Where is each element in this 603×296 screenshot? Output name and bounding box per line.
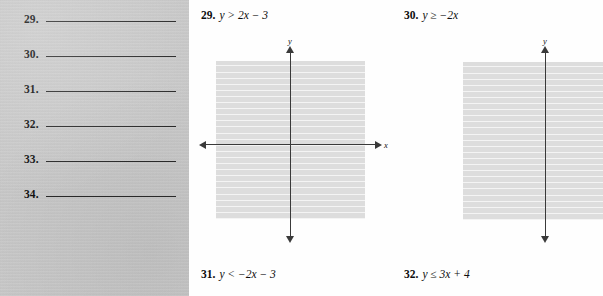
x-axis-right-arrow-icon	[375, 141, 382, 149]
coordinate-grid-30[interactable]: y	[392, 0, 603, 250]
grid-background	[463, 62, 603, 220]
y-axis-line	[545, 52, 546, 237]
y-axis-label: y	[543, 36, 547, 46]
answer-blank-line[interactable]	[46, 161, 176, 162]
answer-number: 31.	[24, 83, 39, 95]
answer-blank-line[interactable]	[46, 21, 176, 22]
problem-label-32: 32.y ≤ 3x + 4	[404, 268, 470, 280]
answer-number: 29.	[24, 13, 39, 25]
answer-blank-line[interactable]	[46, 196, 176, 197]
y-axis-label: y	[288, 36, 292, 46]
x-axis-left-arrow-icon	[199, 141, 206, 149]
answer-number: 34.	[24, 188, 39, 200]
problem-number: 32.	[404, 268, 418, 280]
problem-inequality: y < −2x − 3	[219, 268, 276, 280]
answer-blank-line[interactable]	[46, 91, 176, 92]
answer-blank-line[interactable]	[46, 56, 176, 57]
answer-row: 32.	[0, 113, 189, 129]
y-axis-line	[290, 52, 291, 237]
answer-blanks-panel: 29. 30. 31. 32. 33. 34.	[0, 0, 189, 296]
problem-number: 31.	[201, 268, 215, 280]
x-axis-label: x	[384, 140, 388, 150]
answer-row: 29.	[0, 8, 189, 24]
answer-row: 31.	[0, 78, 189, 94]
answer-number: 30.	[24, 48, 39, 60]
y-axis-down-arrow-icon	[541, 236, 549, 243]
coordinate-grid-29[interactable]: x y	[189, 0, 389, 250]
y-axis-down-arrow-icon	[286, 236, 294, 243]
answer-number: 32.	[24, 118, 39, 130]
problem-label-31: 31.y < −2x − 3	[201, 268, 276, 280]
problem-inequality: y ≤ 3x + 4	[422, 268, 469, 280]
answer-row: 34.	[0, 183, 189, 199]
answer-blank-line[interactable]	[46, 126, 176, 127]
y-axis-up-arrow-icon	[541, 46, 549, 53]
answer-number: 33.	[24, 153, 39, 165]
answer-row: 30.	[0, 43, 189, 59]
answer-row: 33.	[0, 148, 189, 164]
exercise-area: 29.y > 2x − 3 30.y ≥ −2x 31.y < −2x − 3 …	[189, 0, 603, 296]
y-axis-up-arrow-icon	[286, 46, 294, 53]
